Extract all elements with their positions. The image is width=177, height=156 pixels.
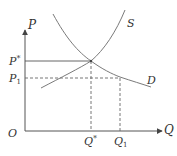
x-axis-label: Q [164,123,174,137]
supply-label: S [127,17,135,30]
q-star-label: Q* [84,134,97,148]
p-star-label: P* [8,54,20,68]
supply-curve [41,10,125,88]
y-axis-label: P [27,18,37,32]
origin-label: O [8,127,17,140]
p1-label: P1 [8,72,21,86]
equilibrium-point [90,60,92,62]
q1-label: Q1 [114,135,128,149]
demand-label: D [146,74,156,87]
supply-demand-diagram: P Q O S D P* P1 Q* Q1 [0,0,177,156]
